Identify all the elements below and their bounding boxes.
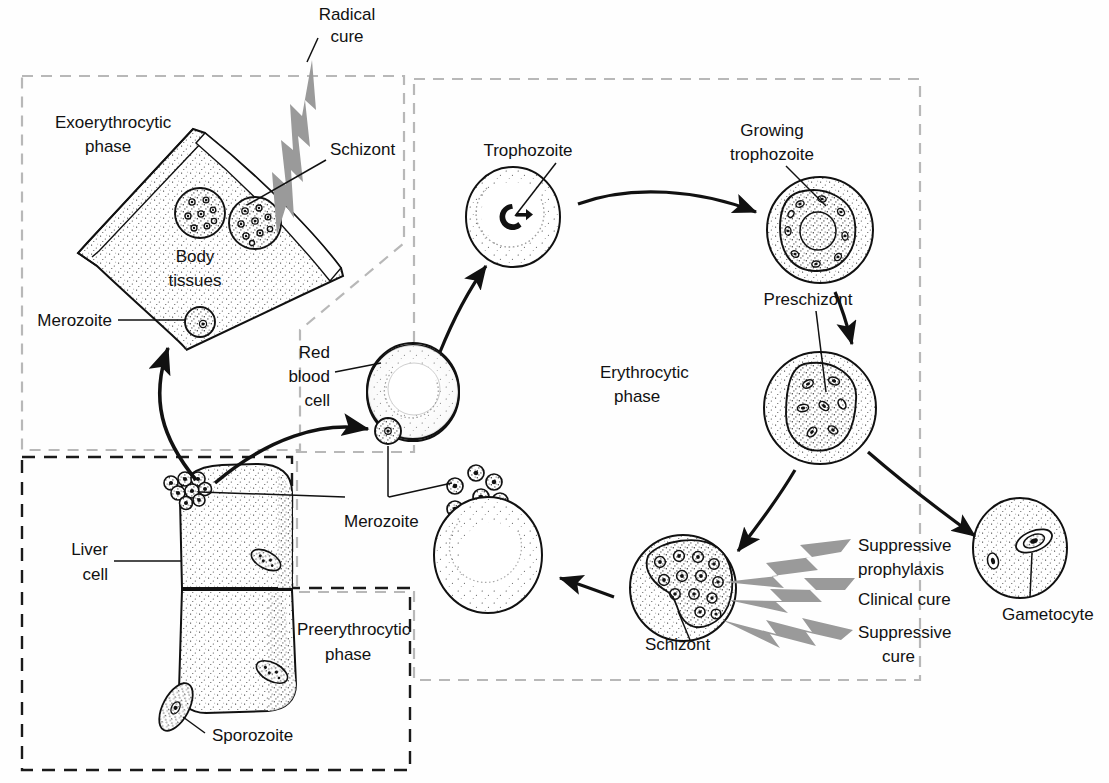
label-merozoite-exo: Merozoite <box>37 311 112 330</box>
erythrocytic-schizont-cell <box>630 535 736 641</box>
label-growing-trophozoite-line2: trophozoite <box>730 145 814 164</box>
leader-merozoite-center-a <box>388 446 389 497</box>
arrow-rbc-to-trophozoite <box>440 266 486 352</box>
label-exoerythrocytic-phase-line1: Exoerythrocytic <box>55 113 172 132</box>
label-preschizont: Preschizont <box>764 290 853 309</box>
arrow-liver-to-bodytissue <box>160 348 196 480</box>
exo-merozoite-cell <box>185 307 215 337</box>
label-suppressive-prophylaxis-line1: Suppressive <box>858 536 952 555</box>
arrow-schizont-to-ruptured <box>560 578 614 597</box>
label-body-tissues-line1b: Body <box>176 247 215 266</box>
gametocyte-cell <box>973 498 1067 598</box>
rbc-invading-merozoite <box>375 418 401 444</box>
label-erythrocytic-phase-line2: phase <box>614 387 660 406</box>
label-liver-cell-line2: cell <box>82 565 108 584</box>
label-preerythrocytic-phase-line2: phase <box>325 645 371 664</box>
label-radical-cure-line1: Radical <box>319 5 376 24</box>
label-body-tissues-line2: tissues <box>169 271 222 290</box>
ruptured-red-blood-cell <box>434 497 542 613</box>
label-suppressive-cure-line1: Suppressive <box>858 623 952 642</box>
leader-sporozoite <box>183 717 205 733</box>
label-erythrocytic-phase-line1: Erythrocytic <box>600 363 689 382</box>
label-clinical-cure: Clinical cure <box>858 590 951 609</box>
radical-cure-lightning-icon <box>272 60 316 235</box>
arrow-trophozoite-to-growing <box>578 192 756 212</box>
label-red-blood-cell-line1: Red <box>299 343 330 362</box>
exo-schizont-2 <box>229 197 281 249</box>
label-suppressive-prophylaxis-line2: prophylaxis <box>858 560 944 579</box>
leader-merozoite-center-c <box>389 483 452 497</box>
label-preerythrocytic-phase-line1: Preerythrocytic <box>297 620 411 639</box>
arrow-preschizont-to-schizont <box>738 470 795 551</box>
label-exoerythrocytic-phase-line2: phase <box>85 137 131 156</box>
label-suppressive-cure-line2: cure <box>882 647 915 666</box>
exo-schizont-1 <box>175 188 225 238</box>
growing-trophozoite-cell <box>767 177 873 283</box>
trophozoite-cell <box>466 167 560 267</box>
label-trophozoite: Trophozoite <box>483 141 572 160</box>
label-sporozoite: Sporozoite <box>212 726 293 745</box>
suppressive-cure-lightning-icon <box>722 618 853 648</box>
label-liver-cell-line1: Liver <box>71 540 108 559</box>
leader-radical-cure <box>307 38 318 62</box>
treatment-lightning-bolts <box>722 539 855 648</box>
label-growing-trophozoite-line1: Growing <box>740 121 803 140</box>
liver-merozoite-cluster <box>164 472 212 510</box>
diagram-canvas: Radical cure Exoerythrocytic phase Schiz… <box>0 0 1109 783</box>
lifecycle-svg: Radical cure Exoerythrocytic phase Schiz… <box>0 0 1109 783</box>
label-schizont-exo: Schizont <box>330 140 395 159</box>
label-gametocyte: Gametocyte <box>1002 605 1094 624</box>
preschizont-cell <box>764 352 876 464</box>
label-merozoite-center: Merozoite <box>344 512 419 531</box>
arrow-preschizont-to-gametocyte <box>868 452 975 536</box>
label-red-blood-cell-line3: cell <box>304 391 330 410</box>
label-red-blood-cell-line2: blood <box>288 367 330 386</box>
label-radical-cure-line2: cure <box>330 27 363 46</box>
label-schizont-ery: Schizont <box>645 635 710 654</box>
